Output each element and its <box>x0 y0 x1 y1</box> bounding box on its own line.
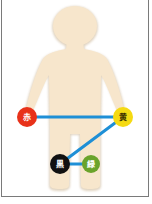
point-black[interactable]: 黒 <box>50 154 70 174</box>
body-diagram: 赤 黄 黒 緑 <box>0 0 152 204</box>
torso-arms-legs <box>25 41 125 189</box>
body-silhouette <box>25 6 125 189</box>
point-red-label: 赤 <box>23 112 31 122</box>
point-green[interactable]: 緑 <box>82 155 100 173</box>
point-green-label: 緑 <box>87 159 96 169</box>
head <box>53 6 97 46</box>
point-black-label: 黒 <box>56 159 64 169</box>
point-yellow[interactable]: 黄 <box>113 107 133 127</box>
point-red[interactable]: 赤 <box>17 107 37 127</box>
point-yellow-label: 黄 <box>119 112 127 122</box>
